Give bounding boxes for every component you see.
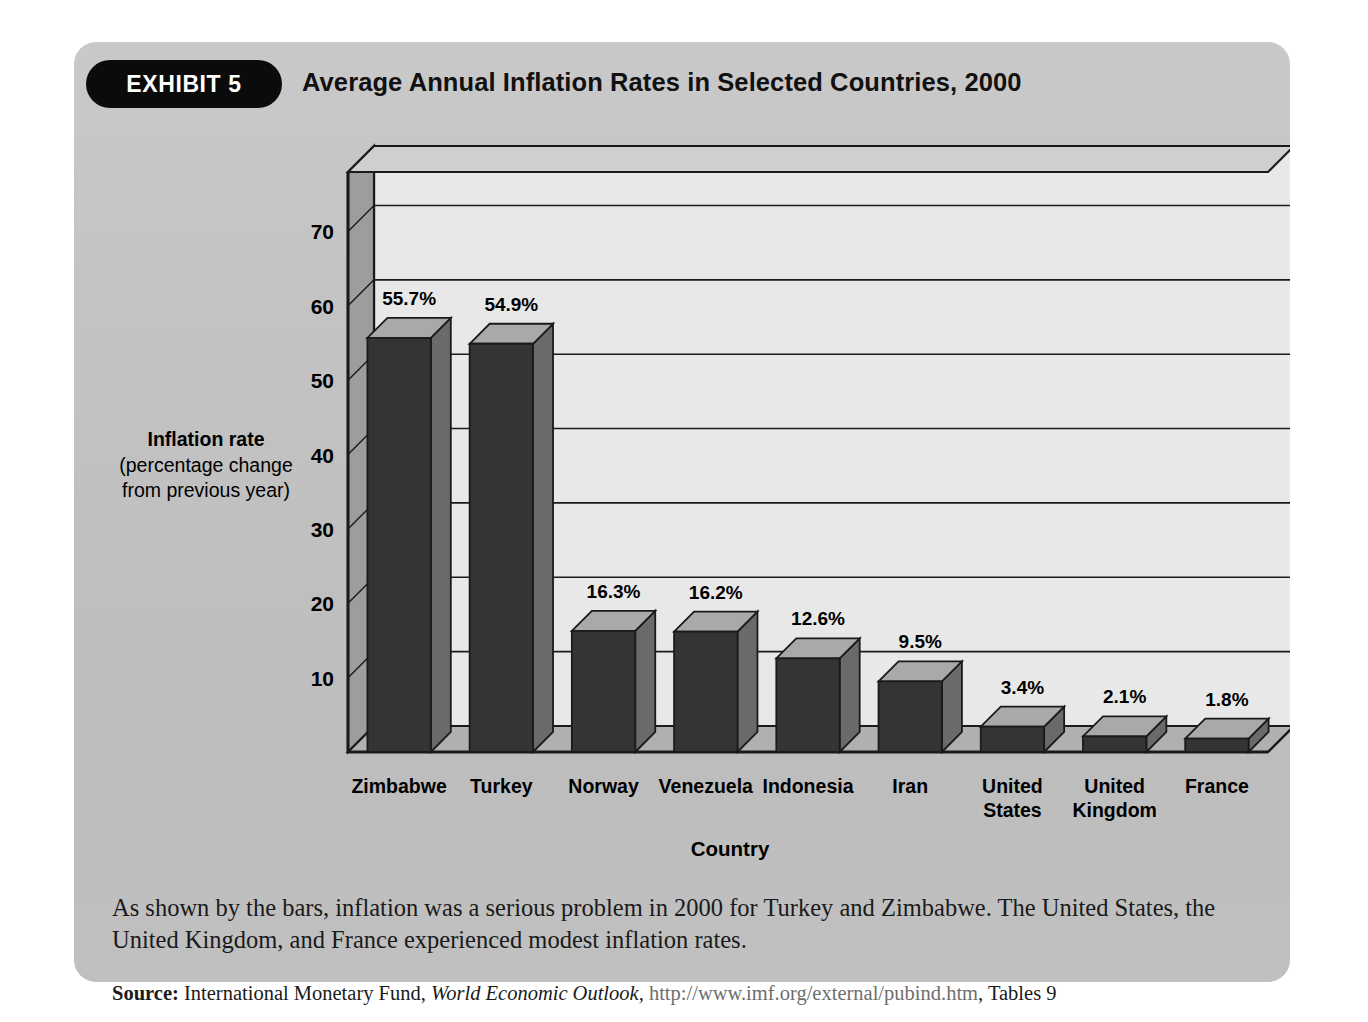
bar-value-label: 54.9% (451, 294, 571, 316)
source-url: http://www.imf.org/external/pubind.htm (649, 982, 978, 1004)
y-axis-tick-label: 10 (292, 667, 334, 691)
bar-value-label: 12.6% (758, 608, 878, 630)
bar-value-label: 9.5% (860, 631, 980, 653)
y-axis-tick-label: 30 (292, 518, 334, 542)
y-axis-tick-label: 40 (292, 444, 334, 468)
x-axis-category: Venezuela (649, 774, 763, 798)
x-axis-category: United States (955, 774, 1069, 822)
source-org: International Monetary Fund, (184, 982, 426, 1004)
x-axis-category: Norway (546, 774, 660, 798)
y-axis-label-main: Inflation rate (98, 428, 314, 451)
x-axis-category: Iran (853, 774, 967, 798)
y-axis-label: Inflation rate (percentage change from p… (98, 428, 314, 503)
source-publication: World Economic Outlook, (431, 982, 644, 1004)
x-axis-category: Zimbabwe (342, 774, 456, 798)
x-axis-category: France (1160, 774, 1274, 798)
x-axis-category: Turkey (444, 774, 558, 798)
y-axis-label-sub: (percentage change from previous year) (98, 453, 314, 503)
x-axis-label: Country (630, 837, 830, 861)
y-axis-tick-label: 70 (292, 220, 334, 244)
source-label: Source: (112, 982, 179, 1004)
source-tables: , Tables 9 (978, 982, 1056, 1004)
bar-value-label: 16.2% (656, 582, 776, 604)
exhibit-panel: EXHIBIT 5 Average Annual Inflation Rates… (74, 42, 1290, 982)
y-axis-tick-label: 20 (292, 592, 334, 616)
exhibit-title: Average Annual Inflation Rates in Select… (302, 68, 1022, 97)
y-axis-tick-label: 50 (292, 369, 334, 393)
exhibit-caption: As shown by the bars, inflation was a se… (112, 892, 1272, 956)
exhibit-badge: EXHIBIT 5 (86, 60, 282, 108)
exhibit-badge-label: EXHIBIT 5 (126, 71, 241, 98)
x-axis-category: Indonesia (751, 774, 865, 798)
x-axis-category: United Kingdom (1058, 774, 1172, 822)
y-axis-tick-label: 60 (292, 295, 334, 319)
bar-value-label: 1.8% (1167, 689, 1287, 711)
source-line: Source: International Monetary Fund, Wor… (112, 982, 1292, 1005)
